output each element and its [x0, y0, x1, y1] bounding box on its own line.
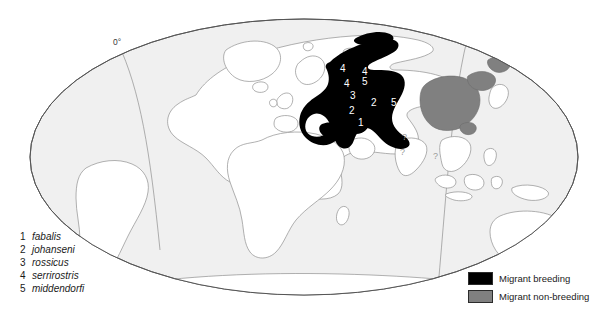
species-number: 3 [20, 257, 32, 268]
class-legend-item-breeding: Migrant breeding [468, 271, 608, 286]
uncertainty-marker: ? [402, 133, 407, 142]
uncertainty-marker: ? [433, 152, 438, 161]
species-number: 5 [20, 283, 32, 294]
breeding-label: Migrant breeding [499, 273, 570, 284]
distribution-map-figure: 0° 4 4 5 4 3 2 5 2 1 ? ? ? 1 fabalis 2 j… [0, 0, 608, 319]
species-legend-item: 2 johanseni [20, 244, 160, 257]
map-number-marker: 4 [340, 64, 346, 74]
species-number: 4 [20, 270, 32, 281]
map-number-marker: 2 [371, 98, 377, 108]
species-name: serrirostris [32, 270, 79, 281]
iberia [274, 116, 298, 133]
species-legend: 1 fabalis 2 johanseni 3 rossicus 4 serri… [20, 231, 160, 296]
map-number-marker: 5 [391, 98, 397, 108]
species-name: johanseni [32, 244, 75, 255]
uncertainty-marker: ? [400, 148, 405, 157]
class-legend: Migrant breeding Migrant non-breeding [468, 271, 608, 307]
class-legend-item-non-breeding: Migrant non-breeding [468, 289, 608, 304]
non-breeding-label: Migrant non-breeding [499, 291, 589, 302]
iceland [253, 82, 268, 93]
ireland [270, 99, 278, 107]
species-number: 2 [20, 244, 32, 255]
meridian-label-zero: 0° [113, 38, 121, 47]
species-legend-item: 3 rossicus [20, 257, 160, 270]
breeding-swatch [468, 272, 493, 285]
map-number-marker: 3 [350, 91, 356, 101]
sulawesi [491, 176, 502, 188]
species-legend-item: 5 middendorfi [20, 283, 160, 296]
svalbard [303, 43, 313, 51]
species-legend-item: 4 serrirostris [20, 270, 160, 283]
map-number-marker: 1 [358, 118, 364, 128]
non-breeding-swatch [468, 290, 493, 303]
map-number-marker: 5 [362, 77, 368, 87]
map-number-marker: 4 [344, 79, 350, 89]
map-number-marker: 2 [349, 106, 355, 116]
australia [490, 211, 569, 267]
species-name: fabalis [32, 231, 61, 242]
species-name: middendorfi [32, 283, 84, 294]
species-legend-item: 1 fabalis [20, 231, 160, 244]
species-number: 1 [20, 231, 32, 242]
species-name: rossicus [32, 257, 69, 268]
borneo [464, 174, 484, 190]
